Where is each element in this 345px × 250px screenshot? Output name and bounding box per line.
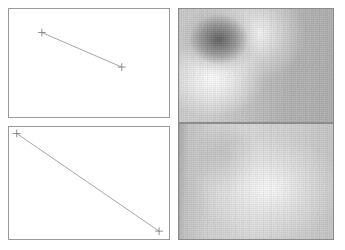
bottom-left-plot-area — [9, 127, 169, 239]
heatmap-noise-overlay — [179, 124, 333, 239]
figure-canvas — [0, 0, 345, 250]
panel-bottom-left-line-plot — [8, 126, 170, 240]
panel-top-right-grayscale-image — [178, 8, 334, 123]
series-1-marker-end — [155, 227, 163, 235]
series-1-line — [17, 133, 159, 231]
top-left-plot-area — [9, 9, 169, 117]
panel-bottom-right-grayscale-image — [178, 123, 334, 240]
series-1-marker-start — [13, 130, 21, 138]
series-1-line — [42, 33, 122, 68]
series-1-marker-end — [118, 63, 126, 71]
series-1-marker-start — [38, 29, 46, 37]
panel-top-left-line-plot — [8, 8, 170, 118]
heatmap-noise-overlay — [179, 9, 333, 122]
